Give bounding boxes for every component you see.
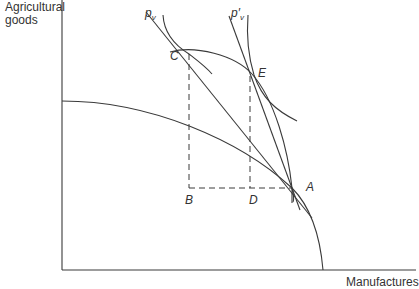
x-axis-label: Manufactures — [346, 276, 419, 289]
price-line-pv-label: pv — [145, 7, 156, 24]
point-a-label: A — [306, 181, 314, 194]
production-frontier-curve — [62, 101, 323, 270]
price-line-pv-prime — [229, 16, 300, 210]
point-d-label: D — [249, 194, 258, 207]
y-axis-label-line2: goods — [5, 14, 65, 27]
point-b-label: B — [185, 194, 193, 207]
pv-prime-subscript: v — [240, 13, 244, 22]
point-c-label: C — [170, 50, 179, 63]
indifference-curve-c — [163, 15, 212, 74]
indifference-curve-e — [247, 15, 297, 121]
price-line-pv-prime-label: p′v — [231, 7, 244, 24]
pv-prime-text: p′ — [231, 6, 240, 20]
y-axis-label: Agricultural goods — [5, 1, 65, 27]
pv-text: p — [145, 6, 152, 20]
point-e-label: E — [258, 67, 266, 80]
pv-subscript: v — [152, 13, 156, 22]
